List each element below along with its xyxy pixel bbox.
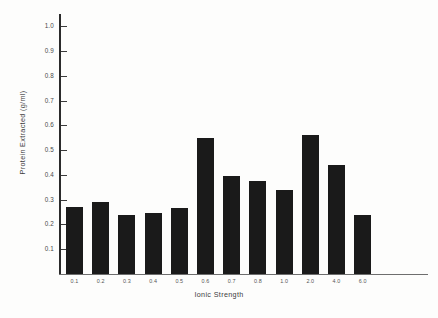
- y-axis-tick-label-text: 0.1: [32, 245, 54, 252]
- y-axis-tick: [61, 175, 67, 176]
- x-axis-tick-label: 1.0: [274, 278, 294, 284]
- x-axis-tick-label: 0.8: [248, 278, 268, 284]
- x-axis-tick-label: 2.0: [300, 278, 320, 284]
- y-axis-tick-label: 0.1: [24, 245, 54, 253]
- y-axis-tick: [61, 101, 67, 102]
- x-axis-tick-label: 0.5: [169, 278, 189, 284]
- y-axis-tick: [61, 76, 67, 77]
- y-axis-tick-label-text: 0.8: [32, 72, 54, 79]
- y-axis-tick: [61, 150, 67, 151]
- y-axis-tick-label-text: 0.2: [32, 220, 54, 227]
- y-axis-tick-label: 0.8: [24, 72, 54, 80]
- y-axis-tick-label: 1.0: [24, 22, 54, 30]
- x-axis-tick-label: 0.2: [91, 278, 111, 284]
- y-axis-tick-label: 0.7: [24, 97, 54, 105]
- y-axis-tick: [61, 125, 67, 126]
- y-axis-tick-label: 0.5: [24, 146, 54, 154]
- bar: [249, 181, 266, 274]
- x-axis-tick-label: 0.3: [117, 278, 137, 284]
- y-axis-line: [59, 14, 61, 275]
- bar: [328, 165, 345, 274]
- bar: [145, 213, 162, 274]
- bar-chart-figure: 0.10.20.30.40.50.60.70.80.91.0 0.10.20.3…: [0, 0, 438, 318]
- bar: [92, 202, 109, 274]
- bar: [197, 138, 214, 274]
- x-axis-title: Ionic Strength: [0, 290, 438, 299]
- bar: [223, 176, 240, 274]
- bar: [171, 208, 188, 274]
- bar: [302, 135, 319, 274]
- y-axis-tick-label-text: 0.9: [32, 47, 54, 54]
- bar: [66, 207, 83, 274]
- y-axis-tick-label: 0.9: [24, 47, 54, 55]
- y-axis-tick-label: 0.4: [24, 171, 54, 179]
- bar: [276, 190, 293, 274]
- y-axis-tick-label-text: 0.3: [32, 196, 54, 203]
- y-axis-tick-label-text: 0.4: [32, 171, 54, 178]
- y-axis-title: Protein Extracted (g/ml): [18, 63, 27, 203]
- x-axis-tick-label: 0.1: [65, 278, 85, 284]
- y-axis-tick: [61, 26, 67, 27]
- y-axis-tick-label: 0.2: [24, 220, 54, 228]
- x-axis-tick-label: 0.4: [143, 278, 163, 284]
- y-axis-tick: [61, 200, 67, 201]
- y-axis-tick-label-text: 0.6: [32, 121, 54, 128]
- x-axis-tick-label: 0.6: [196, 278, 216, 284]
- y-axis-tick-label-text: 0.5: [32, 146, 54, 153]
- bar: [118, 215, 135, 274]
- y-axis-tick-label-text: 1.0: [32, 22, 54, 29]
- x-axis-tick-label: 4.0: [327, 278, 347, 284]
- y-axis-tick-label-text: 0.7: [32, 97, 54, 104]
- x-axis-tick-label: 0.7: [222, 278, 242, 284]
- x-axis-line: [59, 274, 428, 275]
- y-axis-tick-label: 0.6: [24, 121, 54, 129]
- y-axis-tick-label: 0.3: [24, 196, 54, 204]
- x-axis-tick-label: 6.0: [353, 278, 373, 284]
- bar: [354, 215, 371, 274]
- y-axis-tick: [61, 51, 67, 52]
